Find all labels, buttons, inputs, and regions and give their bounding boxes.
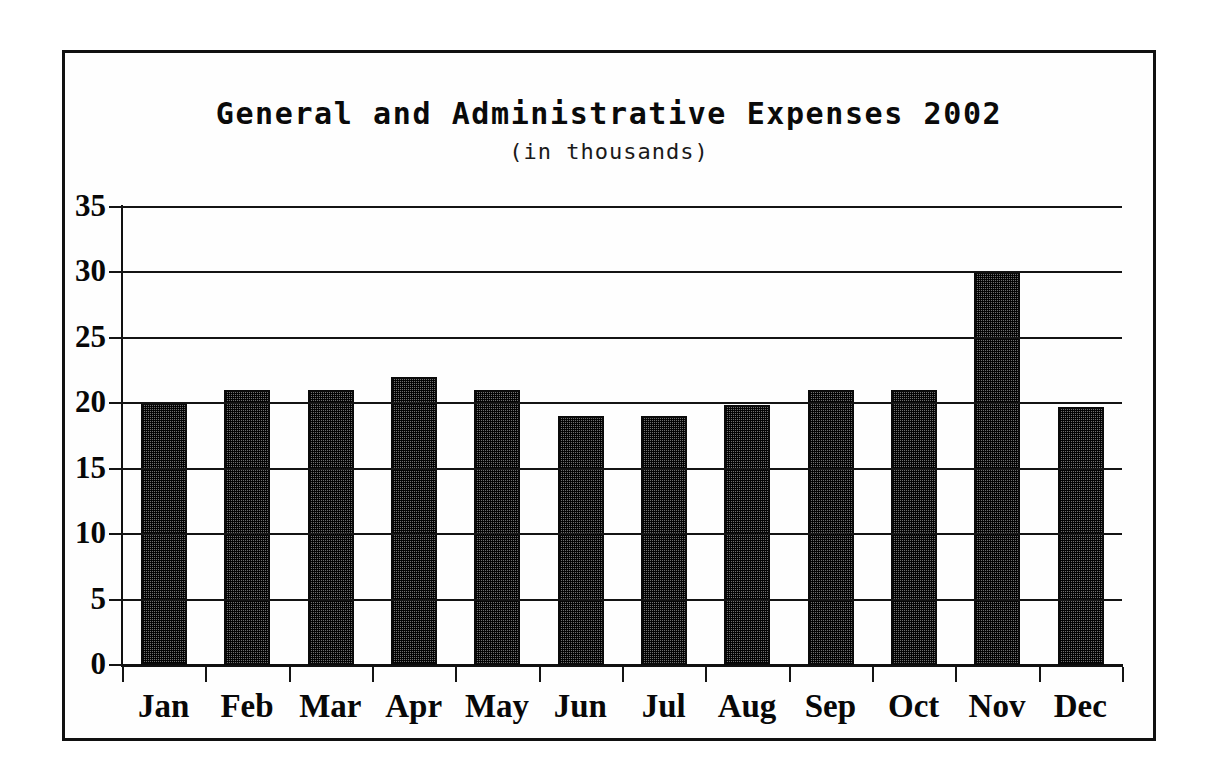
x-axis-tick-label: Jan (122, 688, 205, 726)
chart-title: General and Administrative Expenses 2002 (62, 95, 1156, 133)
bar-slot (289, 207, 372, 665)
x-axis-tick (455, 667, 457, 682)
bar[interactable] (641, 416, 687, 665)
y-axis-tick (109, 402, 122, 404)
bar-slot (372, 207, 455, 665)
y-axis-tick-label: 20 (46, 386, 106, 417)
x-axis-tick (1122, 667, 1124, 682)
bar[interactable] (1058, 407, 1104, 665)
bar-slot (1039, 207, 1122, 665)
bar-series (122, 207, 1122, 665)
x-axis-tick-label: Jun (539, 688, 622, 726)
x-axis-tick-label: Jul (622, 688, 705, 726)
bar[interactable] (224, 390, 270, 665)
bar-slot (539, 207, 622, 665)
bar[interactable] (308, 390, 354, 665)
y-axis-tick (109, 664, 122, 666)
x-axis-ticks (122, 667, 1124, 683)
plot-area (122, 207, 1122, 665)
y-axis-tick (109, 468, 122, 470)
y-axis-tick-label: 10 (46, 517, 106, 548)
x-axis-tick (289, 667, 291, 682)
gridline (122, 206, 1122, 208)
x-axis-labels: JanFebMarAprMayJunJulAugSepOctNovDec (122, 688, 1122, 736)
x-axis-tick-label: Sep (789, 688, 872, 726)
bar[interactable] (558, 416, 604, 665)
gridline (122, 337, 1122, 339)
y-axis-tick-label: 15 (46, 452, 106, 483)
x-axis-tick-label: Dec (1039, 688, 1122, 726)
gridline (122, 599, 1122, 601)
y-axis-tick-label: 5 (46, 583, 106, 614)
bar[interactable] (474, 390, 520, 665)
bar[interactable] (391, 377, 437, 665)
x-axis-tick (789, 667, 791, 682)
chart-page: General and Administrative Expenses 2002… (0, 0, 1212, 783)
bar-slot (705, 207, 788, 665)
y-axis-tick-label: 0 (46, 648, 106, 679)
x-axis-tick (539, 667, 541, 682)
bar-slot (205, 207, 288, 665)
x-axis-tick (705, 667, 707, 682)
gridline (122, 402, 1122, 404)
x-axis-tick (372, 667, 374, 682)
x-axis-tick-label: Mar (289, 688, 372, 726)
bar[interactable] (808, 390, 854, 665)
x-axis-tick-label: Aug (705, 688, 788, 726)
bar-slot (789, 207, 872, 665)
x-axis-tick (955, 667, 957, 682)
x-axis-tick-label: Oct (872, 688, 955, 726)
bar-slot (122, 207, 205, 665)
y-axis-labels: 35302520151050 (38, 207, 106, 665)
chart-subtitle: (in thousands) (62, 139, 1156, 165)
bar-slot (622, 207, 705, 665)
x-axis-tick-label: Nov (955, 688, 1038, 726)
title-block: General and Administrative Expenses 2002… (62, 95, 1156, 165)
x-axis-tick-label: Feb (205, 688, 288, 726)
x-axis-tick (872, 667, 874, 682)
x-axis-tick (205, 667, 207, 682)
x-axis-tick (622, 667, 624, 682)
bar-slot (455, 207, 538, 665)
gridline (122, 468, 1122, 470)
y-axis-tick-label: 25 (46, 321, 106, 352)
y-axis-tick (109, 533, 122, 535)
x-axis-tick-label: May (455, 688, 538, 726)
y-axis-tick (109, 337, 122, 339)
bar-slot (955, 207, 1038, 665)
x-axis-tick (122, 667, 124, 682)
y-axis-tick (109, 271, 122, 273)
bar[interactable] (891, 390, 937, 665)
x-axis-tick-label: Apr (372, 688, 455, 726)
x-axis-tick (1039, 667, 1041, 682)
gridline (122, 271, 1122, 273)
bar-slot (872, 207, 955, 665)
gridline (122, 533, 1122, 535)
y-axis-tick-label: 35 (46, 190, 106, 221)
y-axis-tick (109, 206, 122, 208)
y-axis-tick (109, 599, 122, 601)
y-axis-tick-label: 30 (46, 255, 106, 286)
